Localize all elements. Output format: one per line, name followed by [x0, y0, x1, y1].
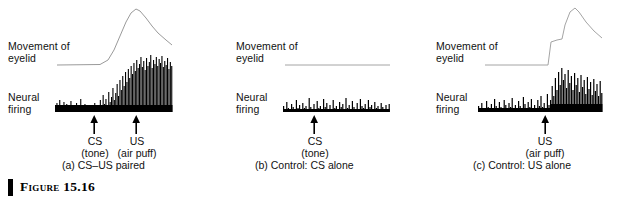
us-marker-sublabel-a: (air puff): [110, 147, 164, 159]
us-marker-arrow-a: [132, 115, 140, 134]
panel-a-caption: (a) CS–US paired: [62, 159, 145, 171]
cs-marker-sublabel-b: (tone): [294, 147, 336, 159]
us-marker-name-a: US: [110, 135, 164, 147]
neural-firing-spikes-c: [478, 68, 602, 112]
eyelid-movement-trace-c: [485, 8, 602, 65]
us-marker-sublabel-c: (air puff): [518, 147, 572, 159]
us-marker-label-a: US (air puff): [110, 135, 164, 159]
figure-caption: Figure 15.16: [8, 176, 95, 198]
panel-a-cs-us-paired: Movement of eyelid Neural firing: [0, 0, 200, 175]
panel-b-control-cs-alone: Movement of eyelid Neural firing: [210, 0, 410, 175]
eyelid-movement-trace-a: [57, 9, 172, 65]
panel-c-control-us-alone: Movement of eyelid Neural firing: [410, 0, 623, 175]
figure-caption-bar: [8, 179, 13, 196]
us-marker-label-c: US (air puff): [518, 135, 572, 159]
cs-marker-arrow-b: [310, 115, 318, 134]
figure-caption-text: Figure 15.16: [20, 179, 95, 195]
cs-marker-label-b: CS (tone): [294, 135, 336, 159]
panel-c-plot: [410, 0, 623, 175]
us-marker-name-c: US: [518, 135, 572, 147]
cs-marker-arrow-a: [90, 115, 98, 134]
panel-c-caption: (c) Control: US alone: [473, 159, 571, 171]
figure-15-16: Movement of eyelid Neural firing: [0, 0, 623, 201]
neural-firing-spikes-a: [55, 55, 173, 112]
us-marker-arrow-c: [541, 115, 549, 134]
neural-firing-spikes-b: [283, 98, 390, 112]
cs-marker-name-b: CS: [294, 135, 336, 147]
panel-b-caption: (b) Control: CS alone: [255, 159, 354, 171]
